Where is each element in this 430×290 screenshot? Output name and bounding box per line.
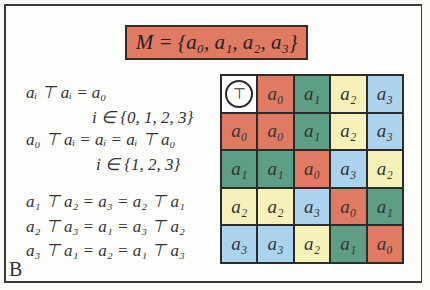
header-col-a3: a₃	[368, 76, 402, 112]
equation-a1-a2: a₁ ⊤ a₂ = a₃ = a₂ ⊤ a₁	[26, 191, 185, 212]
table-cell: a₀	[368, 226, 402, 262]
header-col-a2: a₂	[331, 76, 365, 112]
equation-domain-all: i ∈ {0, 1, 2, 3}	[92, 107, 193, 128]
header-row-a2: a₂	[222, 189, 256, 225]
panel-label: B	[9, 258, 22, 281]
table-cell: a₂	[368, 151, 402, 187]
table-cell: a₀	[295, 151, 329, 187]
table-cell: a₂	[258, 189, 292, 225]
equation-domain-nonzero: i ∈ {1, 2, 3}	[96, 154, 180, 175]
equation-a3-a1: a₃ ⊤ a₁ = a₂ = a₁ ⊤ a₃	[26, 240, 185, 261]
table-cell: a₁	[258, 151, 292, 187]
table-cell: a₁	[368, 189, 402, 225]
table-cell: a₂	[295, 226, 329, 262]
table-cell: a₃	[258, 226, 292, 262]
header-row-a0: a₀	[222, 114, 256, 150]
header-col-a0: a₀	[258, 76, 292, 112]
circled-operator-icon: ⊤	[225, 80, 253, 108]
header-row-a1: a₁	[222, 151, 256, 187]
header-row-a3: a₃	[222, 226, 256, 262]
equation-identity-neutral: a₀ ⊤ aᵢ = aᵢ = aᵢ ⊤ a₀	[26, 129, 175, 150]
table-cell: a₀	[258, 114, 292, 150]
table-cell: a₁	[331, 226, 365, 262]
table-cell: a₃	[368, 114, 402, 150]
set-definition-box: M = {a₀, a₁, a₂, a₃}	[125, 25, 308, 60]
set-definition: M = {a₀, a₁, a₂, a₃}	[136, 30, 298, 55]
table-cell: a₂	[331, 114, 365, 150]
table-cell: a₃	[295, 189, 329, 225]
operation-table: ⊤ a₀ a₁ a₂ a₃ a₀ a₀ a₁ a₂ a₃ a₁ a₁ a₀ a₃…	[220, 74, 404, 264]
operator-cell: ⊤	[222, 76, 256, 112]
equation-identity-self: aᵢ ⊤ aᵢ = a₀	[26, 82, 106, 103]
equation-a2-a3: a₂ ⊤ a₃ = a₁ = a₃ ⊤ a₂	[26, 216, 185, 237]
table-cell: a₃	[331, 151, 365, 187]
header-col-a1: a₁	[295, 76, 329, 112]
table-cell: a₀	[331, 189, 365, 225]
table-cell: a₁	[295, 114, 329, 150]
